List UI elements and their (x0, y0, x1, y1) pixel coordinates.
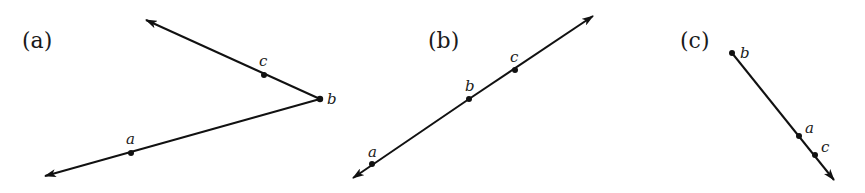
point-a-label: a (126, 130, 135, 148)
panel-c-label: (c) (680, 28, 710, 53)
ray-bc (146, 20, 320, 99)
point-c (812, 152, 818, 158)
point-a (128, 150, 134, 156)
point-b-label: b (465, 77, 475, 95)
point-b-label: b (740, 44, 750, 62)
ray-ba (45, 99, 320, 176)
point-a (369, 161, 375, 167)
point-c-label: c (259, 52, 268, 70)
line-up (469, 16, 593, 99)
point-b-label: b (327, 90, 337, 108)
point-a-label: a (368, 143, 377, 161)
panel-b: (b) a b c (353, 16, 593, 178)
panel-a: (a) c b a (22, 20, 337, 176)
panel-b-label: (b) (428, 28, 459, 53)
point-c-label: c (821, 138, 830, 156)
panel-a-label: (a) (22, 28, 52, 53)
rays-diagram: (a) c b a (b) a b c (c) b a c (0, 0, 865, 193)
point-b (466, 96, 472, 102)
point-b (729, 50, 735, 56)
point-b (317, 96, 323, 102)
panel-c: (c) b a c (680, 28, 834, 180)
point-c-label: c (510, 48, 519, 66)
point-c (512, 67, 518, 73)
point-c (261, 72, 267, 78)
ray-b (732, 53, 834, 180)
point-a (796, 133, 802, 139)
point-a-label: a (805, 119, 814, 137)
